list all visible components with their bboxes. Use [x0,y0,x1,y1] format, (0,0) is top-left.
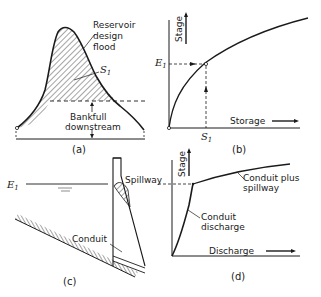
d-y-arrow-head [187,148,191,153]
label-reservoir: Reservoir [93,20,136,30]
arrow-down-head [90,134,94,138]
label-discharge: discharge [201,222,245,232]
label-spillway: spillway [243,183,280,193]
label-conduit: Conduit [201,212,236,222]
c-e1-label: E1 [6,179,19,192]
stage-storage-curve [169,18,308,128]
caption-d: (d) [231,271,245,282]
d-spillway-point [192,183,194,185]
conduit-discharge-curve [172,184,193,256]
b-x-axis-label: Storage [230,116,266,126]
b-e1-label: E1 [154,57,167,70]
b-s1-label: S1 [201,131,212,144]
origin-marker [15,126,18,129]
conduit-leader [110,244,122,252]
b-x-arrow-head [294,119,299,123]
b-arrow-left-head [190,62,196,66]
d-y-axis-label: Stage [177,151,187,177]
b-origin-marker [167,126,170,129]
figure-canvas: Reservoir design flood S1 Bankfull downs… [0,0,321,297]
label-bankfull: Bankfull [70,112,106,122]
label-conduit-plus: Conduit plus [243,173,300,183]
caption-c: (c) [63,276,76,287]
panel-a: Reservoir design flood S1 Bankfull downs… [15,20,148,155]
caption-a: (a) [72,144,86,155]
label-s1-a: S1 [100,64,111,77]
b-y-arrow-head [184,12,188,17]
spillway-label: Spillway [125,175,163,185]
panel-b: Stage Storage E1 S1 (b) [154,12,308,155]
spillway-crest [114,183,130,207]
label-flood: flood [93,42,115,52]
d-x-arrow-head [291,249,296,253]
arrow-up-head [90,102,94,106]
label-design: design [93,31,123,41]
ground-hatch [15,214,138,277]
d-x-axis-label: Discharge [209,246,255,256]
b-arrow-up-head [204,86,208,92]
d-conduit-leader [188,210,200,218]
panel-c: E1 Conduit Spillway (c) [6,158,163,287]
label-downstream: downstream [65,122,121,132]
panel-d: Stage Discharge Conduit discharge Condui… [158,148,300,282]
conduit-label: Conduit [72,234,107,244]
caption-b: (b) [232,144,246,155]
b-y-axis-label: Stage [174,16,184,42]
